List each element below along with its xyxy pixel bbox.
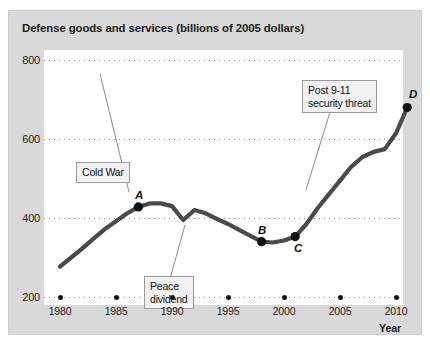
- marker-b: [257, 237, 266, 246]
- x-tick-1990: 1990: [152, 305, 192, 317]
- x-tick-dot-2000: [282, 295, 287, 300]
- x-tick-dot-1980: [58, 295, 63, 300]
- chart-title: Defense goods and services (billions of …: [22, 22, 304, 34]
- plot-area: A B C D Cold War Peace dividend Post 9-1…: [44, 50, 403, 305]
- marker-a: [134, 202, 143, 211]
- leader-line-post-911: [306, 112, 330, 190]
- point-label-b: B: [258, 224, 266, 236]
- x-tick-dot-1985: [114, 295, 119, 300]
- y-tick-400: 400: [6, 212, 40, 224]
- x-tick-1980: 1980: [40, 305, 80, 317]
- point-label-c: C: [294, 242, 302, 254]
- x-tick-2000: 2000: [264, 305, 304, 317]
- point-label-d: D: [409, 88, 417, 100]
- callout-cold-war: Cold War: [76, 162, 130, 183]
- x-tick-dot-1995: [226, 295, 231, 300]
- y-tick-800: 800: [6, 54, 40, 66]
- x-tick-1985: 1985: [96, 305, 136, 317]
- x-tick-dot-2005: [338, 295, 343, 300]
- marker-c: [291, 232, 300, 241]
- y-tick-200: 200: [6, 291, 40, 303]
- callout-post-911: Post 9-11 security threat: [302, 80, 377, 113]
- marker-d: [403, 103, 412, 112]
- x-tick-dot-2010: [394, 295, 399, 300]
- y-tick-600: 600: [6, 133, 40, 145]
- point-label-a: A: [135, 189, 143, 201]
- x-axis-title: Year: [379, 322, 401, 334]
- x-tick-dot-1990: [170, 295, 175, 300]
- x-tick-1995: 1995: [208, 305, 248, 317]
- x-tick-2010: 2010: [376, 305, 416, 317]
- figure: Defense goods and services (billions of …: [0, 0, 430, 345]
- x-tick-2005: 2005: [320, 305, 360, 317]
